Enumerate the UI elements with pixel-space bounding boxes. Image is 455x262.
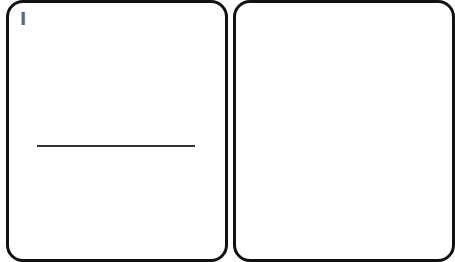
card-partial[interactable] [233, 0, 455, 262]
card-rank-label: I [20, 11, 26, 28]
card[interactable]: I [6, 0, 228, 262]
answer-blank-line [37, 145, 195, 147]
